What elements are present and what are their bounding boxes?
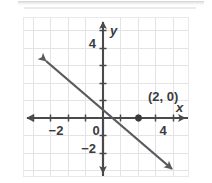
y-tick-label-neg2: −2 [81,141,96,156]
x-intercept-point-marker [135,115,142,122]
origin-label: 0 [92,123,99,138]
x-tick-label-neg2: −2 [49,123,64,138]
intercept-point-label: (2, 0) [148,89,178,104]
y-axis-name-label: y [109,23,118,38]
x-tick-label-4: 4 [159,123,167,138]
figure-container: 4 −2 −2 0 4 y x (2, 0) [0,0,212,183]
coordinate-plane-graph: 4 −2 −2 0 4 y x (2, 0) [0,0,212,183]
y-tick-label-4: 4 [89,36,97,51]
